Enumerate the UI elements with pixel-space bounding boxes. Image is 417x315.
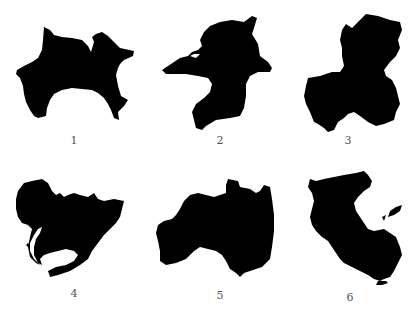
figure-4: 4	[0, 155, 140, 315]
figure-1: 1	[0, 0, 140, 150]
figure-label: 1	[64, 134, 84, 147]
figure-5: 5	[140, 155, 280, 315]
figure-label: 2	[210, 134, 230, 147]
figure-3: 3	[280, 0, 417, 150]
figure-label: 4	[64, 287, 84, 300]
prefecture-silhouette-2	[140, 0, 280, 150]
prefecture-silhouette-1	[0, 0, 140, 150]
prefecture-silhouette-3	[280, 0, 417, 150]
figure-label: 3	[338, 134, 358, 147]
figure-6: 6	[280, 155, 417, 315]
figure-2: 2	[140, 0, 280, 150]
figure-label: 5	[210, 289, 230, 302]
figure-label: 6	[340, 291, 360, 304]
